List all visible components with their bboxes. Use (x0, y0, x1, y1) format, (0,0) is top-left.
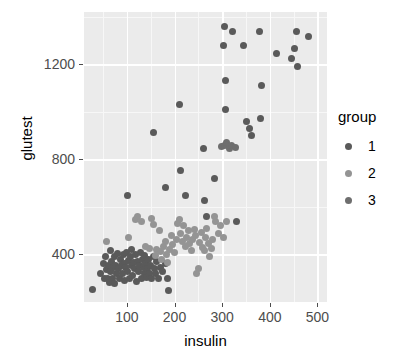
scatter-plot: glutest 4008001200 100200300400500 insul… (0, 0, 411, 359)
legend-item-label: 1 (368, 138, 376, 154)
y-axis-tick-mark (79, 64, 83, 65)
data-point (273, 50, 280, 57)
x-axis-tick-label: 500 (287, 310, 347, 324)
legend: group 123 (337, 108, 411, 215)
data-point (220, 234, 227, 241)
data-point (243, 118, 250, 125)
data-point (165, 287, 172, 294)
legend-key-swatch (337, 189, 359, 211)
gridline-minor-horizontal (84, 112, 327, 113)
y-axis-title: glutest (18, 89, 35, 189)
data-point (221, 23, 228, 30)
data-point (159, 268, 166, 275)
gridline-major-vertical (317, 12, 319, 302)
gridline-major-horizontal (84, 64, 327, 66)
legend-entries: 123 (337, 134, 411, 212)
x-axis-title: insulin (84, 332, 327, 349)
plot-panel (84, 12, 327, 302)
x-axis-tick-label: 200 (145, 310, 205, 324)
data-point (162, 238, 169, 245)
gridline-major-vertical (175, 12, 177, 302)
data-point (209, 236, 216, 243)
data-point (294, 63, 301, 70)
data-point (293, 28, 300, 35)
data-point (206, 253, 213, 260)
x-axis-tick-mark (175, 303, 176, 307)
data-point (150, 221, 157, 228)
x-axis-tick-mark (270, 303, 271, 307)
legend-key-swatch (337, 135, 359, 157)
gridline-minor-horizontal (84, 207, 327, 208)
y-axis-tick-label: 400 (23, 247, 75, 261)
y-axis-tick-mark (79, 254, 83, 255)
legend-item-label: 2 (368, 165, 376, 181)
data-point (229, 28, 236, 35)
gridline-minor-horizontal (84, 17, 327, 18)
legend-key-swatch (337, 162, 359, 184)
x-axis-tick-mark (317, 303, 318, 307)
data-point (138, 218, 145, 225)
data-point (203, 213, 210, 220)
data-point (162, 184, 169, 191)
data-point (203, 225, 210, 232)
data-point (257, 115, 264, 122)
data-point (188, 247, 195, 254)
gridline-major-horizontal (84, 159, 327, 161)
x-axis-tick-mark (127, 303, 128, 307)
gridline-minor-vertical (198, 12, 199, 302)
data-point (232, 144, 239, 151)
data-point (222, 77, 229, 84)
legend-item-1[interactable]: 1 (337, 134, 411, 158)
data-point (150, 129, 157, 136)
data-point (208, 245, 215, 252)
data-point (155, 275, 162, 282)
data-point (176, 101, 183, 108)
legend-dot-icon (345, 197, 352, 204)
data-point (195, 265, 202, 272)
x-axis-tick-label: 100 (97, 310, 157, 324)
data-point (256, 28, 263, 35)
data-point (305, 33, 312, 40)
data-point (211, 175, 218, 182)
data-point (258, 82, 265, 89)
x-axis-tick-mark (222, 303, 223, 307)
legend-title: group (337, 108, 411, 125)
data-point (288, 55, 295, 62)
data-point (146, 245, 153, 252)
data-point (248, 132, 255, 139)
legend-dot-icon (345, 143, 352, 150)
data-point (171, 249, 178, 256)
data-point (200, 145, 207, 152)
data-point (177, 167, 184, 174)
data-point (124, 192, 131, 199)
legend-item-2[interactable]: 2 (337, 161, 411, 185)
gridline-major-vertical (222, 12, 224, 302)
legend-item-label: 3 (368, 192, 376, 208)
data-point (291, 45, 298, 52)
data-point (233, 218, 240, 225)
y-axis-tick-label: 1200 (23, 57, 75, 71)
data-point (223, 218, 230, 225)
x-axis-tick-label: 400 (240, 310, 300, 324)
data-point (246, 125, 253, 132)
data-point (89, 286, 96, 293)
data-point (201, 197, 208, 204)
x-axis-tick-label: 300 (192, 310, 252, 324)
data-point (182, 192, 189, 199)
data-point (156, 227, 163, 234)
data-point (220, 42, 227, 49)
data-point (164, 275, 171, 282)
data-point (103, 238, 110, 245)
data-point (240, 42, 247, 49)
y-axis-tick-mark (79, 159, 83, 160)
legend-dot-icon (345, 170, 352, 177)
gridline-minor-vertical (246, 12, 247, 302)
data-point (164, 259, 171, 266)
gridline-major-vertical (270, 12, 272, 302)
data-point (125, 234, 132, 241)
legend-item-3[interactable]: 3 (337, 188, 411, 212)
